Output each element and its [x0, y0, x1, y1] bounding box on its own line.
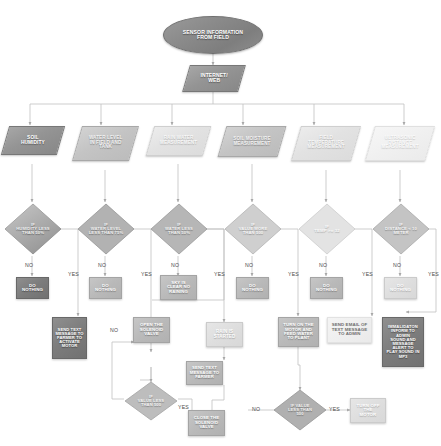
node-label: INTERNET/ WEB	[188, 73, 240, 83]
node-label: SEND TEXT MESSAGE TO FARMER TO ACTIVATE …	[54, 328, 85, 349]
decision-value-less-500-right: IF VALUE LESS THAN 500	[273, 389, 327, 431]
edge-label-no-6: NO	[393, 262, 401, 268]
node-label: IF HUMIDITY LESS THAN 50%	[11, 223, 55, 236]
process-turn-off-motor: TURN OFF THE MOTOR	[350, 398, 386, 423]
edge-label-no-1: NO	[25, 262, 33, 268]
node-label: WATER LEVEL IN FIELD AND TANK	[79, 136, 132, 150]
node-water-level: WATER LEVEL IN FIELD AND TANK	[72, 126, 139, 161]
node-label: TURN OFF THE MOTOR	[352, 404, 384, 417]
node-label: TURN ON THE MOTOR AND FEED WATER TO PLAN…	[280, 323, 317, 341]
node-label: IF VALUE MORE THAN 500	[231, 223, 275, 236]
node-label: SEND TEXT MESSAGE TO FARMER	[188, 366, 221, 379]
decision-water-less-than: IF WATER LESS THAN 50%	[150, 203, 208, 255]
process-turn-on-motor-feed-water: TURN ON THE MOTOR AND FEED WATER TO PLAN…	[278, 317, 319, 347]
edge-label-no-4: NO	[245, 262, 253, 268]
process-do-nothing-2: DO NOTHING	[89, 277, 122, 299]
decision-value-more-than-500: IF VALUE MORE THAN 500	[224, 203, 282, 255]
process-close-solenoid-valve: CLOSE THE SOLENOID VALVE	[188, 410, 225, 436]
node-label: IF TEMP >= 32	[305, 225, 349, 234]
node-rain-water-measurement: RAIN WATER MEASUREMENT	[146, 126, 212, 156]
decision-humidity-less-than: IF HUMIDITY LESS THAN 50%	[4, 203, 62, 255]
node-label: IF VALUE LESS THAN 500	[280, 404, 321, 417]
node-label: DO NOTHING	[386, 284, 415, 293]
node-internet-web: INTERNET/ WEB	[182, 65, 246, 92]
node-label: SENSOR INFORMATION FROM FIELD	[165, 30, 261, 40]
decision-value-less-500-left: IF VALUE LESS THAN 500	[124, 381, 178, 421]
node-label: CLOSE THE SOLENOID VALVE	[190, 416, 223, 429]
decision-water-level-less-than: IF WATER LEVEL LESS THAN 75%	[77, 203, 135, 255]
node-label: SKY IS CLEAR NO RAINING	[162, 281, 195, 294]
process-send-email-to-admin: SEND EMAIL OF TEXT MESSAGE TO ADMIN	[327, 317, 372, 343]
node-soil-moisture-measurement: SOIL MOISTURE MEASUREMENT	[218, 126, 287, 157]
node-label: IF WATER LESS THAN 50%	[157, 223, 201, 236]
edge-label-no-left-valve: NO	[110, 327, 118, 333]
edge-label-yes-right-motor: YES	[329, 406, 340, 412]
decision-temp-threshold: IF TEMP >= 32	[298, 203, 356, 255]
node-label: SOIL HUMIDITY	[7, 136, 59, 146]
edge-label-yes-5: YES	[362, 271, 373, 277]
node-label: IF VALUE LESS THAN 500	[131, 395, 172, 408]
edge-label-no-2: NO	[98, 262, 106, 268]
node-label: FIELD TEMPERATURE MEASUREMENT	[298, 136, 354, 150]
node-label: DO NOTHING	[312, 284, 341, 293]
edge-label-no-right-motor: NO	[252, 406, 260, 412]
process-do-nothing-4: DO NOTHING	[236, 277, 269, 299]
process-immediate-alert-admin: IMMALIDATON INFORM TO ADMIN SOUND AND ME…	[382, 317, 424, 367]
node-label: ULTRASONIC DISTANCE MEASUREMENT	[372, 136, 428, 150]
node-start-sensor-information: SENSOR INFORMATION FROM FIELD	[163, 16, 263, 54]
node-label: DO NOTHING	[18, 284, 47, 293]
node-label: DO NOTHING	[238, 284, 267, 293]
node-label: SOIL MOISTURE MEASUREMENT	[224, 137, 280, 146]
node-label: SEND EMAIL OF TEXT MESSAGE TO ADMIN	[329, 323, 370, 336]
node-label: DO NOTHING	[91, 284, 120, 293]
node-label: RAIN WATER MEASUREMENT	[152, 136, 205, 145]
process-do-nothing-1: DO NOTHING	[16, 277, 49, 299]
process-sky-is-clear: SKY IS CLEAR NO RAINING	[160, 275, 197, 300]
process-send-text-message-farmer: SEND TEXT MESSAGE TO FARMER	[186, 361, 223, 385]
node-label: IF WATER LEVEL LESS THAN 75%	[84, 223, 128, 236]
edge-label-no-3: NO	[171, 262, 179, 268]
edge-label-yes-3: YES	[214, 271, 225, 277]
edge-label-yes-1: YES	[68, 271, 79, 277]
process-do-nothing-6: DO NOTHING	[384, 277, 417, 299]
edge-label-yes-left-valve: YES	[178, 404, 189, 410]
process-do-nothing-5: DO NOTHING	[310, 277, 343, 299]
node-ultrasonic-distance-measurement: ULTRASONIC DISTANCE MEASUREMENT	[365, 126, 435, 161]
flowchart-canvas: SENSOR INFORMATION FROM FIELD INTERNET/ …	[0, 0, 441, 446]
edge-label-yes-2: YES	[141, 271, 152, 277]
edge-label-no-5: NO	[319, 262, 327, 268]
edge-label-yes-4: YES	[288, 271, 299, 277]
process-rain-is-started: RAIN IS STARTED	[206, 322, 243, 347]
node-field-temperature-measurement: FIELD TEMPERATURE MEASUREMENT	[291, 126, 361, 161]
node-label: RAIN IS STARTED	[208, 330, 241, 339]
node-label: IF DISTANCE < 10 METER	[379, 223, 423, 236]
decision-distance-threshold: IF DISTANCE < 10 METER	[372, 203, 430, 255]
node-label: OPEN THE SOLENOID VALVE	[135, 323, 168, 336]
process-send-text-activate-motor: SEND TEXT MESSAGE TO FARMER TO ACTIVATE …	[52, 317, 87, 359]
process-open-solenoid-valve: OPEN THE SOLENOID VALVE	[133, 317, 170, 343]
node-soil-humidity: SOIL HUMIDITY	[1, 126, 65, 155]
edge-label-yes-6: YES	[428, 271, 439, 277]
node-label: IMMALIDATON INFORM TO ADMIN SOUND AND ME…	[384, 325, 422, 358]
